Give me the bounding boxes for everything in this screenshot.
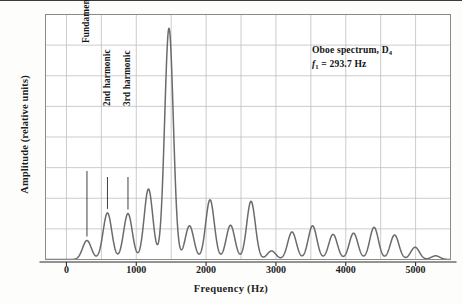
x-tick-label: 4000	[336, 264, 356, 275]
harmonic-callout-label: Fundamental or 1st harmonic	[81, 0, 91, 43]
oboe-spectrum-figure: Amplitude (relative units) Frequency (Hz…	[0, 0, 462, 304]
x-axis-label: Frequency (Hz)	[0, 283, 462, 294]
mask-top	[0, 1, 462, 15]
harmonic-callout-label: 3rd harmonic	[122, 50, 132, 106]
annotation-line-2: f1 = 293.7 Hz	[312, 57, 392, 71]
x-tick-label: 0	[64, 264, 69, 275]
y-axis-label: Amplitude (relative units)	[19, 25, 30, 245]
harmonic-callout-label: 2nd harmonic	[102, 49, 112, 106]
x-tick-label: 1000	[126, 264, 146, 275]
x-tick-label: 5000	[406, 264, 426, 275]
annotation-text: Oboe spectrum, D4 f1 = 293.7 Hz	[312, 43, 392, 72]
mask-right	[451, 1, 462, 304]
annotation-line-1: Oboe spectrum, D4	[312, 43, 392, 57]
x-tick-label: 2000	[196, 264, 216, 275]
spectrum-plot	[0, 1, 462, 304]
x-tick-label: 3000	[266, 264, 286, 275]
